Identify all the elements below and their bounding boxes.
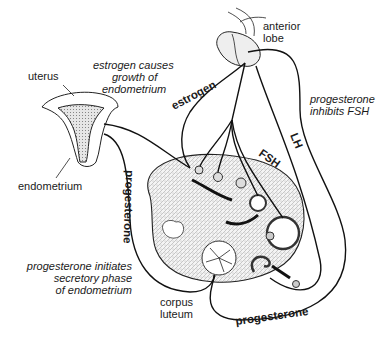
svg-text:endometrium: endometrium	[102, 83, 166, 95]
svg-text:secretory phase: secretory phase	[54, 272, 132, 284]
progesterone-inhibits-annotation: progesterone	[309, 93, 375, 105]
ovary	[148, 154, 304, 287]
lh-pathway-label: LH	[288, 131, 305, 150]
progesterone-bottom-label: progesterone	[235, 305, 309, 327]
estrogen-effect-annotation: estrogen causes	[93, 59, 174, 71]
corpus-luteum-label: corpus	[160, 296, 194, 308]
uterus	[42, 85, 118, 178]
pituitary-gland	[217, 8, 266, 66]
svg-text:of endometrium: of endometrium	[56, 284, 132, 296]
reproductive-hormone-diagram: anterior lobe uterus endometrium corpus …	[0, 0, 392, 346]
svg-text:inhibits FSH: inhibits FSH	[310, 105, 369, 117]
svg-text:lobe: lobe	[263, 32, 284, 44]
progesterone-initiates-annotation: progesterone initiates	[26, 260, 133, 272]
svg-text:growth of: growth of	[112, 71, 158, 83]
svg-text:luteum: luteum	[160, 308, 193, 320]
anterior-lobe-label: anterior	[263, 20, 301, 32]
uterus-label: uterus	[28, 70, 59, 82]
endometrium-label: endometrium	[18, 180, 82, 192]
progesterone-left-label: progesterone	[121, 170, 136, 244]
